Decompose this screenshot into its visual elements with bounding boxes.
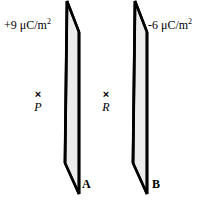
field-point-p: × P	[26, 88, 50, 114]
charge-density-value-b: -6 μC/m	[148, 18, 188, 32]
plane-a-left-edge	[65, 1, 67, 163]
field-point-label-r: R	[94, 100, 118, 114]
charge-density-exponent-b: 2	[188, 17, 192, 26]
charge-density-label-b: -6 μC/m2	[148, 19, 192, 32]
cross-marker-icon: ×	[94, 88, 118, 100]
charge-density-value-a: +9 μC/m	[4, 18, 47, 32]
plane-label-b: B	[152, 178, 160, 191]
field-point-label-p: P	[26, 100, 50, 114]
charged-planes-figure: +9 μC/m2 -6 μC/m2 × P × R A B	[0, 0, 204, 204]
charge-density-label-a: +9 μC/m2	[4, 19, 51, 32]
charge-density-exponent-a: 2	[47, 17, 51, 26]
field-point-r: × R	[94, 88, 118, 114]
plane-label-a: A	[82, 178, 91, 191]
cross-marker-icon: ×	[26, 88, 50, 100]
plane-b-left-edge	[133, 1, 135, 163]
